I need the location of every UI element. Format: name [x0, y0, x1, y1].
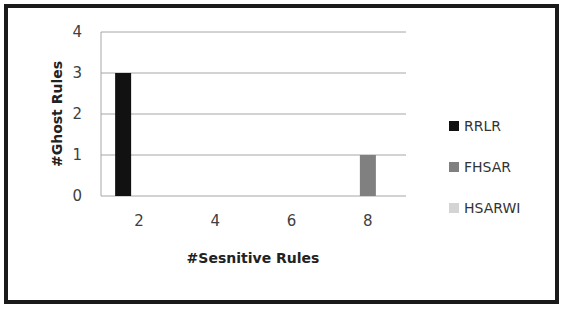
bar-rrlr	[115, 73, 131, 196]
y-tick-label: 2	[72, 105, 82, 123]
y-tick-label: 0	[72, 187, 82, 205]
x-tick-label: 4	[211, 212, 221, 230]
y-tick-label: 1	[72, 146, 82, 164]
x-tick-label: 8	[363, 212, 373, 230]
y-axis-title: #Ghost Rules	[49, 61, 65, 167]
bars	[115, 73, 376, 196]
legend-label-fhsar: FHSAR	[464, 159, 511, 175]
legend-swatch-rrlr	[449, 121, 459, 131]
x-tick-label: 6	[287, 212, 297, 230]
x-axis-title: #Sesnitive Rules	[187, 250, 320, 266]
legend-label-hsarwi: HSARWI	[464, 200, 520, 216]
x-axis-ticks: 2468	[134, 212, 372, 230]
y-tick-label: 4	[72, 23, 82, 41]
y-axis-ticks: 01234	[72, 23, 82, 205]
bar-chart: 01234 2468 #Sesnitive Rules #Ghost Rules…	[0, 0, 561, 311]
legend-swatch-fhsar	[449, 162, 459, 172]
legend-swatch-hsarwi	[449, 203, 459, 213]
y-tick-label: 3	[72, 64, 82, 82]
legend: RRLRFHSARHSARWI	[449, 118, 520, 216]
x-tick-label: 2	[134, 212, 144, 230]
bar-fhsar	[360, 155, 376, 196]
legend-label-rrlr: RRLR	[464, 118, 501, 134]
